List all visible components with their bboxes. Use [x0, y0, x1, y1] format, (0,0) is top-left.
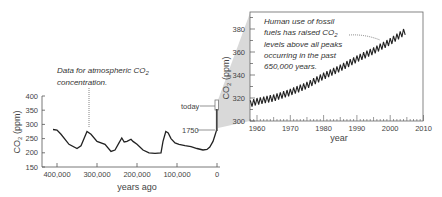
left-y-label: CO2 (ppm) [12, 111, 23, 154]
left-y-tick-label: 300 [25, 120, 38, 129]
left-x-tick-label: 400,000 [43, 170, 70, 179]
today-label: today [181, 102, 200, 111]
right-y-tick-label: 380 [232, 25, 245, 34]
right-annotation-4: occurring in the past [264, 51, 337, 60]
left-y-tick-label: 350 [25, 106, 38, 115]
left-x-tick-label: 200,000 [123, 170, 150, 179]
right-y-tick-label: 360 [232, 48, 245, 57]
left-y-tick-label: 150 [25, 163, 38, 172]
left-chart: 400350300250200150 400,000300,000200,000… [12, 66, 220, 192]
right-x-tick-label: 1960 [249, 124, 266, 133]
right-x-label: year [330, 133, 348, 143]
recent-box [215, 100, 219, 110]
right-x-tick-label: 1970 [282, 124, 299, 133]
left-y-tick-label: 400 [25, 92, 38, 101]
right-x-tick-label: 2000 [382, 124, 399, 133]
left-x-tick-label: 100,000 [163, 170, 190, 179]
right-y-label: CO2 (ppm) [221, 57, 232, 100]
right-annotation-5: 650,000 years. [264, 62, 317, 71]
right-annotation-1: Human use of fossil [264, 17, 334, 26]
figure-canvas: 400350300250200150 400,000300,000200,000… [0, 0, 442, 197]
right-y-tick-label: 300 [232, 117, 245, 126]
left-annotation-2: concentration. [57, 78, 107, 87]
right-x-tick-label: 1980 [315, 124, 332, 133]
right-y-tick-label: 340 [232, 71, 245, 80]
right-annotation-2: fuels has raised CO2 [264, 28, 338, 38]
left-x-label: years ago [117, 182, 157, 192]
right-annotation-3: levels above all peaks [264, 40, 342, 49]
left-y-tick-label: 200 [25, 148, 38, 157]
y1750-label: 1750 [182, 126, 199, 135]
right-chart: 380360340320300 196019701980199020002010… [221, 12, 432, 143]
left-y-tick-label: 250 [25, 134, 38, 143]
right-x-tick-label: 2010 [415, 124, 432, 133]
left-x-tick-label: 300,000 [83, 170, 110, 179]
right-x-tick-label: 1990 [349, 124, 366, 133]
left-annotation: Data for atmospheric CO2 [57, 66, 149, 76]
left-x-tick-label: 0 [215, 170, 219, 179]
right-y-tick-label: 320 [232, 94, 245, 103]
